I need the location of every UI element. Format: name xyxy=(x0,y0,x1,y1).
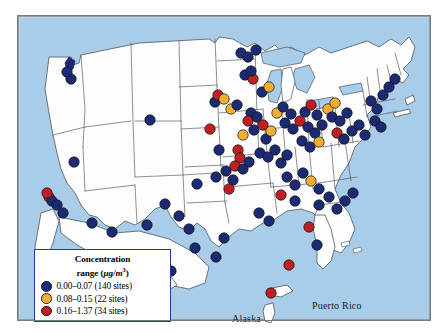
site-marker xyxy=(174,211,184,221)
site-marker xyxy=(330,98,340,108)
site-marker xyxy=(284,260,294,270)
legend-title-line2: range (μg/m3) xyxy=(40,265,165,279)
site-marker xyxy=(211,172,221,182)
site-marker xyxy=(372,104,382,114)
legend-swatch-0 xyxy=(41,281,52,292)
legend-title-units: μg/m xyxy=(104,268,123,278)
site-marker xyxy=(270,145,280,155)
conus-outline xyxy=(45,37,415,253)
figure-root: Hawaii Alaska Puerto Rico Concentration … xyxy=(0,0,448,334)
site-marker xyxy=(246,66,256,76)
site-marker xyxy=(276,190,286,200)
site-marker xyxy=(214,145,224,155)
site-marker xyxy=(42,188,52,198)
site-marker xyxy=(266,126,276,136)
site-marker xyxy=(290,180,300,190)
site-marker xyxy=(190,243,200,253)
site-marker xyxy=(224,184,234,194)
site-marker xyxy=(282,172,292,182)
site-marker xyxy=(339,134,349,144)
site-marker xyxy=(266,288,276,298)
site-marker xyxy=(69,157,79,167)
site-marker xyxy=(360,130,370,140)
map-frame: Hawaii Alaska Puerto Rico Concentration … xyxy=(17,15,431,321)
legend-title-suffix: ) xyxy=(126,268,129,278)
site-marker xyxy=(306,176,316,186)
site-marker xyxy=(62,67,72,77)
site-marker xyxy=(348,188,358,198)
legend-label-1: 0.08–0.15 (22 sites) xyxy=(57,294,128,304)
site-marker xyxy=(390,74,400,84)
site-marker xyxy=(107,227,117,237)
site-marker xyxy=(354,120,364,130)
site-marker xyxy=(312,110,322,120)
map-label-puerto-rico: Puerto Rico xyxy=(312,300,362,311)
site-marker xyxy=(142,220,152,230)
site-marker xyxy=(332,204,342,214)
map-legend: Concentration range (μg/m3) 0.00–0.07 (1… xyxy=(34,249,171,322)
site-marker xyxy=(298,168,308,178)
legend-title: Concentration range (μg/m3) xyxy=(40,254,165,278)
legend-items: 0.00–0.07 (140 sites)0.08–0.15 (22 sites… xyxy=(40,280,165,317)
map-label-alaska: Alaska xyxy=(232,313,261,324)
site-marker xyxy=(244,157,254,167)
site-marker xyxy=(58,208,68,218)
site-marker xyxy=(219,94,229,104)
legend-item-0: 0.00–0.07 (140 sites) xyxy=(40,280,165,292)
site-marker xyxy=(314,200,324,210)
site-marker xyxy=(184,224,194,234)
legend-swatch-1 xyxy=(41,293,52,304)
legend-label-2: 0.16–1.37 (34 sites) xyxy=(57,306,128,316)
site-marker xyxy=(317,120,327,130)
site-marker xyxy=(205,124,215,134)
site-marker xyxy=(264,216,274,226)
site-marker xyxy=(286,109,296,119)
site-marker xyxy=(324,192,334,202)
site-marker xyxy=(290,196,300,206)
site-marker xyxy=(145,115,155,125)
legend-item-1: 0.08–0.15 (22 sites) xyxy=(40,292,165,304)
legend-label-0: 0.00–0.07 (140 sites) xyxy=(57,281,132,291)
legend-title-prefix: range ( xyxy=(76,268,103,278)
site-marker xyxy=(306,100,316,110)
long-island xyxy=(393,109,411,117)
alaska-inset xyxy=(263,303,275,323)
site-marker xyxy=(264,82,274,92)
site-marker xyxy=(219,233,229,243)
site-marker xyxy=(376,122,386,132)
site-marker xyxy=(340,196,350,206)
site-marker xyxy=(282,150,292,160)
site-marker xyxy=(304,222,314,232)
site-marker xyxy=(238,130,248,140)
site-marker xyxy=(251,45,261,55)
site-marker xyxy=(312,240,322,250)
site-marker xyxy=(342,108,352,118)
legend-swatch-2 xyxy=(41,306,52,317)
site-marker xyxy=(87,218,97,228)
site-marker xyxy=(314,137,324,147)
legend-title-line1: Concentration xyxy=(40,254,165,265)
site-marker xyxy=(254,208,264,218)
site-marker xyxy=(314,184,324,194)
site-marker xyxy=(160,199,170,209)
site-marker xyxy=(211,252,221,262)
site-marker xyxy=(192,179,202,189)
site-marker xyxy=(232,100,242,110)
legend-item-2: 0.16–1.37 (34 sites) xyxy=(40,305,165,317)
cape-cod xyxy=(405,95,415,105)
